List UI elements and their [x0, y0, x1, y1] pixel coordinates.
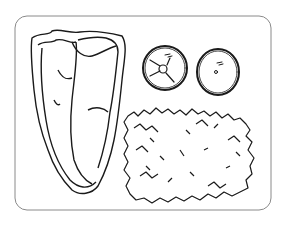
- steak-icon: [31, 30, 125, 193]
- rice-patty-icon: [124, 108, 254, 203]
- orange-icon: [197, 49, 239, 95]
- tomato-slice-icon: [143, 46, 187, 90]
- plate-illustration: [0, 0, 284, 225]
- tray-outline: [15, 16, 271, 210]
